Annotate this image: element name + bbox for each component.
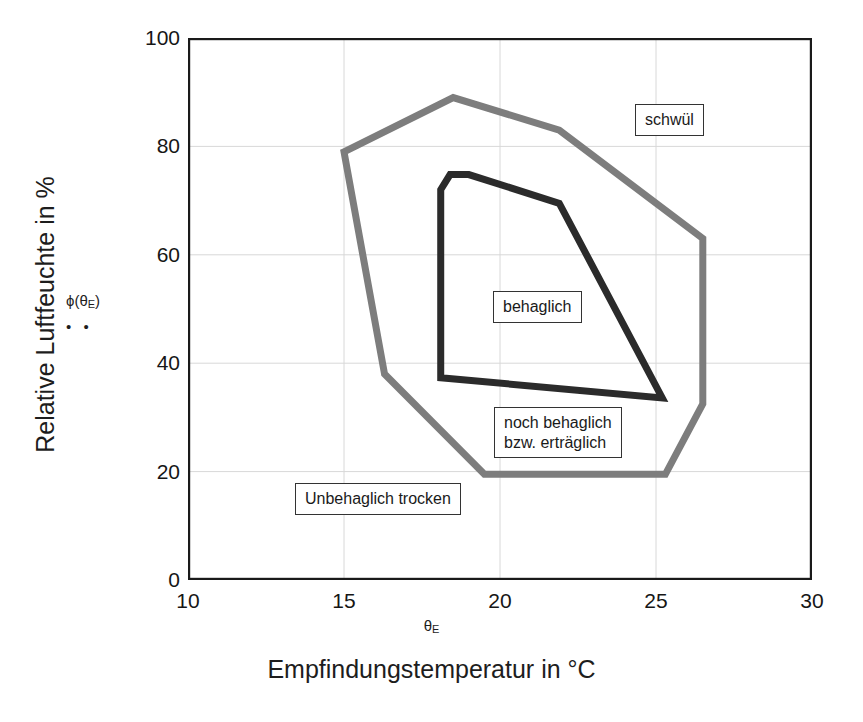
x-tick-25: 25 — [626, 589, 686, 613]
annotation-noch-line1: noch behaglich — [504, 414, 612, 431]
y-tick-60: 60 — [134, 243, 180, 267]
annotation-noch-line2: bzw. erträglich — [504, 434, 606, 451]
phi-symbol-label: ϕ(θE) — [66, 292, 100, 310]
phi-symbol-prefix: ϕ(θ — [66, 292, 88, 309]
annotation-behaglich: behaglich — [493, 291, 582, 323]
y-axis-title: Relative Luftfeuchte in % — [31, 65, 60, 565]
phi-symbol-suffix: ) — [95, 292, 100, 309]
x-axis-symbol-theta: θ — [424, 617, 432, 634]
y-tick-20: 20 — [134, 460, 180, 484]
annotation-noch-behaglich: noch behaglich bzw. erträglich — [494, 407, 622, 458]
y-tick-40: 40 — [134, 351, 180, 375]
x-tick-20: 20 — [470, 589, 530, 613]
y-tick-labels: 100 80 60 40 20 0 — [130, 0, 180, 600]
x-tick-30: 30 — [782, 589, 842, 613]
phi-legend-dots: • • — [66, 318, 93, 335]
phi-symbol-subscript: E — [88, 298, 95, 310]
chart-page: Relative Luftfeuchte in % ϕ(θE) • • 100 … — [0, 0, 863, 722]
y-tick-100: 100 — [134, 26, 180, 50]
x-axis-symbol: θE — [0, 617, 863, 635]
x-tick-10: 10 — [158, 589, 218, 613]
x-tick-15: 15 — [314, 589, 374, 613]
annotation-schwuel: schwül — [635, 104, 704, 136]
annotation-unbehaglich-trocken: Unbehaglich trocken — [295, 483, 461, 515]
x-axis-title: Empfindungstemperatur in °C — [0, 655, 863, 684]
y-tick-80: 80 — [134, 134, 180, 158]
polygon-behaglich — [441, 175, 663, 398]
x-axis-symbol-subscript: E — [432, 623, 439, 635]
